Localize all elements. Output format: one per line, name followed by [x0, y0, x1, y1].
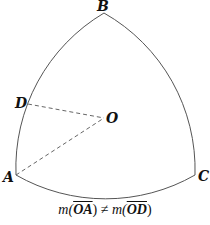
arc-AB: [16, 13, 104, 175]
caption-seg-OD: OD: [127, 202, 147, 217]
reuleaux-diagram: B D O A C: [0, 0, 210, 225]
caption-close2: ): [147, 202, 152, 217]
caption-m2: m(: [112, 202, 127, 217]
caption: m(OA) ≠ m(OD): [0, 202, 210, 218]
label-B: B: [96, 0, 109, 14]
arc-BC: [104, 13, 195, 175]
caption-neq: ≠: [97, 202, 112, 217]
caption-seg-OA: OA: [73, 202, 92, 217]
arc-CA: [16, 175, 195, 199]
label-D: D: [14, 95, 28, 111]
label-A: A: [1, 169, 14, 185]
label-O: O: [106, 110, 119, 126]
label-C: C: [198, 168, 209, 184]
segment-OD: [28, 104, 104, 118]
segment-OA: [16, 118, 104, 175]
caption-m1: m(: [58, 202, 73, 217]
